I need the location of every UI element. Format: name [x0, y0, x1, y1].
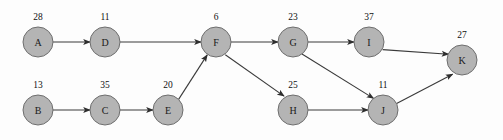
- node-circle-f[interactable]: [201, 27, 231, 57]
- node-weight-d: 11: [100, 12, 109, 22]
- graph-node-h[interactable]: 25H: [278, 80, 308, 125]
- node-circle-c[interactable]: [90, 95, 120, 125]
- node-weight-g: 23: [288, 12, 298, 22]
- graph-diagram-canvas: 28A11D6F23G37I27K13B35C20E25H11J: [0, 0, 503, 140]
- graph-node-f[interactable]: 6F: [201, 12, 231, 57]
- edge-j-to-k: [397, 74, 453, 103]
- nodes-layer: 28A11D6F23G37I27K13B35C20E25H11J: [23, 12, 477, 125]
- graph-node-d[interactable]: 11D: [90, 12, 120, 57]
- node-circle-e[interactable]: [153, 95, 183, 125]
- graph-node-e[interactable]: 20E: [153, 80, 183, 125]
- graph-node-k[interactable]: 27K: [447, 30, 477, 75]
- node-circle-g[interactable]: [278, 27, 308, 57]
- node-circle-d[interactable]: [90, 27, 120, 57]
- node-weight-i: 37: [364, 12, 374, 22]
- node-circle-h[interactable]: [278, 95, 308, 125]
- node-circle-b[interactable]: [23, 95, 53, 125]
- edge-f-to-h: [225, 55, 284, 96]
- node-circle-j[interactable]: [368, 95, 398, 125]
- node-circle-i[interactable]: [354, 27, 384, 57]
- graph-svg: 28A11D6F23G37I27K13B35C20E25H11J: [0, 0, 503, 140]
- graph-node-b[interactable]: 13B: [23, 80, 53, 125]
- node-weight-f: 6: [214, 12, 219, 22]
- node-circle-a[interactable]: [23, 27, 53, 57]
- node-weight-h: 25: [288, 80, 298, 90]
- node-weight-k: 27: [457, 30, 467, 40]
- edge-e-to-f: [179, 55, 208, 100]
- graph-node-a[interactable]: 28A: [23, 12, 53, 57]
- node-weight-e: 20: [163, 80, 173, 90]
- node-circle-k[interactable]: [447, 45, 477, 75]
- node-weight-a: 28: [33, 12, 43, 22]
- graph-node-j[interactable]: 11J: [368, 80, 398, 125]
- node-weight-j: 11: [378, 80, 387, 90]
- node-weight-c: 35: [100, 80, 110, 90]
- node-weight-b: 13: [33, 80, 43, 90]
- graph-node-c[interactable]: 35C: [90, 80, 120, 125]
- graph-node-g[interactable]: 23G: [278, 12, 308, 57]
- edge-g-to-j: [302, 54, 374, 98]
- graph-node-i[interactable]: 37I: [354, 12, 384, 57]
- edge-i-to-k: [383, 50, 449, 55]
